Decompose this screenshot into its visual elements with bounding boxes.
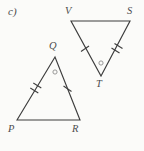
triangle-pqr — [17, 57, 80, 120]
vertex-label-v: V — [65, 6, 71, 17]
vertex-label-q: Q — [49, 41, 57, 52]
triangle-vst-outline — [71, 21, 130, 76]
vertex-label-p: P — [8, 124, 14, 135]
tick-mark-st-double — [112, 44, 123, 54]
triangle-pqr-outline — [17, 57, 80, 120]
vertex-label-t: T — [96, 79, 102, 90]
vertex-label-r: R — [72, 124, 78, 135]
triangle-vst — [71, 21, 130, 76]
angle-mark-t — [99, 61, 103, 65]
geometry-figure: c) — [0, 0, 144, 151]
angle-mark-q — [53, 70, 57, 74]
vertex-label-s: S — [127, 6, 132, 17]
tick-mark-qr-single — [64, 86, 72, 92]
